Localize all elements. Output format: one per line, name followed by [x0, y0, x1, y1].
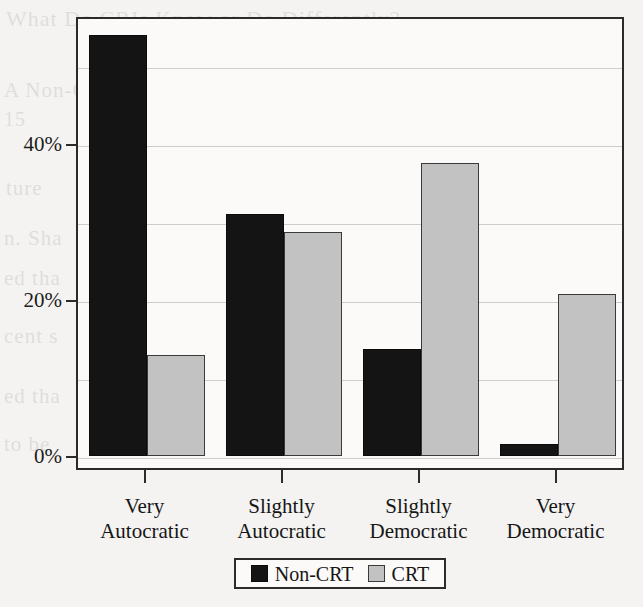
gridline [78, 224, 622, 225]
y-axis-tick-label: 20% [0, 290, 62, 311]
y-axis-tick-mark [66, 456, 78, 458]
legend-swatch-icon [368, 565, 385, 582]
x-axis-tick-mark [418, 470, 420, 483]
bar [500, 444, 558, 456]
x-axis-group-label: VeryDemocratic [471, 494, 641, 544]
y-axis-tick-mark [66, 144, 78, 146]
x-axis-group-label-line: Very [471, 494, 641, 519]
plot-area [76, 17, 624, 470]
legend-label: Non-CRT [275, 564, 354, 584]
bar [421, 163, 479, 456]
x-axis-tick-mark [281, 470, 283, 483]
plot-inner [78, 19, 622, 468]
legend-swatch-icon [251, 565, 268, 582]
gridline [78, 302, 622, 303]
bar [284, 232, 342, 456]
x-axis-group-label-line: Democratic [471, 519, 641, 544]
bar [363, 349, 421, 456]
bar [558, 294, 616, 456]
y-axis-tick-label: 40% [0, 134, 62, 155]
gridline [78, 68, 622, 69]
y-axis-tick-label: 0% [0, 446, 62, 467]
gridline [78, 146, 622, 147]
gridline [78, 458, 622, 459]
legend-label: CRT [392, 564, 430, 584]
legend-entry: CRT [368, 564, 430, 584]
x-axis-tick-mark [555, 470, 557, 483]
legend-entry: Non-CRT [251, 564, 354, 584]
bar [147, 355, 205, 456]
bar [226, 214, 284, 456]
bar [89, 35, 147, 456]
y-axis-tick-mark [66, 300, 78, 302]
chart-legend: Non-CRTCRT [234, 558, 446, 589]
bar-chart-figure: 0%20%40% VeryAutocraticSlightlyAutocrati… [0, 0, 643, 607]
x-axis-tick-mark [144, 470, 146, 483]
